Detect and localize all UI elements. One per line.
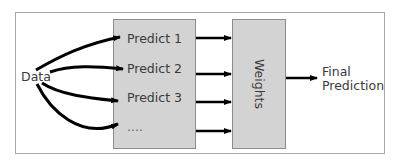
final-label: Final	[322, 66, 351, 79]
predict-1-label: Predict 1	[127, 33, 182, 46]
arrow-data-to-predict-more	[37, 84, 118, 128]
arrow-data-to-predict-2	[50, 67, 123, 72]
predict-more-label: ....	[127, 121, 143, 134]
arrow-data-to-predict-3	[42, 83, 118, 101]
prediction-label: Prediction	[322, 80, 384, 93]
predict-2-label: Predict 2	[127, 63, 182, 76]
arrow-data-to-predict-1	[36, 37, 120, 70]
data-label: Data	[21, 71, 51, 84]
predict-3-label: Predict 3	[127, 92, 182, 105]
weights-label: Weights	[252, 59, 267, 109]
